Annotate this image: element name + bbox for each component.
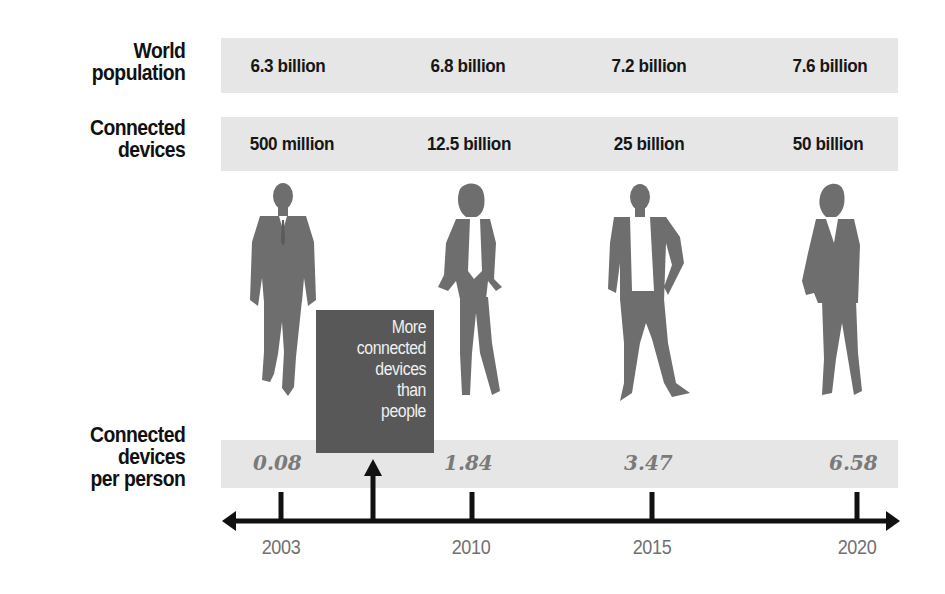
year-2015: 2015 [616,536,688,559]
timeline-axis [0,0,945,594]
up-arrow-icon [364,459,382,476]
year-2003: 2003 [245,536,317,559]
year-2020: 2020 [821,536,893,559]
right-arrow-icon [886,511,900,531]
left-arrow-icon [222,511,236,531]
year-2010: 2010 [435,536,507,559]
